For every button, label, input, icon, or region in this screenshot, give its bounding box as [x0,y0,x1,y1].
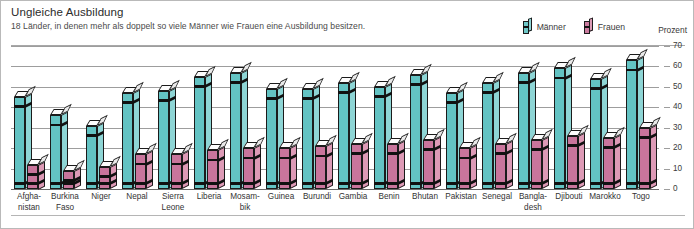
category-label: Guinea [263,192,299,203]
ytick-dash-30 [664,128,670,129]
ytick-dash-50 [664,87,670,88]
category-label: Bhutan [407,192,443,203]
y-axis-tick-label: 40 [673,102,693,111]
category-label: Mosam- bik [227,192,263,213]
bar-male [626,60,637,189]
category-label: Burkina Faso [47,192,83,213]
book-icon-female [584,19,593,34]
y-axis-tick-label: 0 [673,184,693,193]
category-label: Nepal [119,192,155,203]
category-label: Benin [371,192,407,203]
ytick-dash-10 [664,169,670,170]
category-label: Togo [623,192,659,203]
y-axis-tick-label: 50 [673,82,693,91]
legend-item-maenner: Männer [523,19,566,34]
axis-unit-label: Prozent [658,25,687,35]
ytick-dash-20 [664,148,670,149]
category-label: Marokko [587,192,623,203]
page-title: Ungleiche Ausbildung [11,6,124,18]
chart-header: Ungleiche Ausbildung 18 Länder, in denen… [1,1,694,47]
chart-category-labels: Afgha- nistanBurkina FasoNigerNepalSierr… [11,192,659,224]
y-axis-tick-label: 60 [673,61,693,70]
ytick-dash-70 [664,46,670,47]
category-label: Afgha- nistan [11,192,47,213]
chart-bars-layer [11,46,659,189]
chart-legend: Männer Frauen [523,19,625,34]
bar-female [639,128,650,189]
infographic-chart-panel: Ungleiche Ausbildung 18 Länder, in denen… [0,0,694,229]
y-axis-tick-label: 10 [673,164,693,173]
category-label: Bangla- desh [515,192,551,213]
bar-group [11,46,659,189]
gridline-0 [11,189,659,190]
legend-label-frauen: Frauen [598,22,625,32]
ytick-dash-60 [664,66,670,67]
category-label: Djibouti [551,192,587,203]
category-label: Pakistan [443,192,479,203]
legend-label-maenner: Männer [537,22,566,32]
y-axis-tick-label: 70 [673,41,693,50]
category-label: Sierra Leone [155,192,191,213]
category-label: Senegal [479,192,515,203]
chart-subtitle: 18 Länder, in denen mehr als doppelt so … [11,21,365,31]
category-label: Niger [83,192,119,203]
y-axis-tick-label: 20 [673,143,693,152]
footer-divider [11,215,685,216]
y-axis-tick-label: 30 [673,123,693,132]
ytick-dash-40 [664,107,670,108]
category-label: Burundi [299,192,335,203]
legend-item-frauen: Frauen [584,19,625,34]
category-label: Liberia [191,192,227,203]
ytick-dash-0 [664,189,670,190]
category-label: Gambia [335,192,371,203]
book-icon-male [523,19,532,34]
